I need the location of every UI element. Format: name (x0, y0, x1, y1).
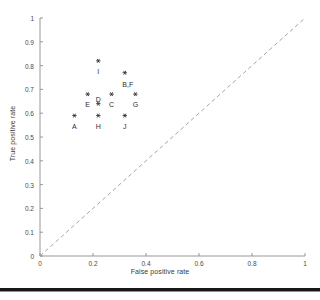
roc-plot-canvas (0, 0, 320, 300)
data-point-marker (96, 114, 100, 118)
point-label-c: C (109, 101, 114, 108)
y-tick-label: 0.2 (8, 205, 34, 212)
y-axis-title: True positive rate (9, 89, 16, 179)
y-tick-label: 0.3 (8, 181, 34, 188)
x-tick-label: 0.2 (88, 260, 97, 267)
y-tick-label: 0 (8, 253, 34, 260)
y-tick-label: 0.1 (8, 229, 34, 236)
data-point-marker (72, 114, 76, 118)
roc-figure: 00.20.40.60.8100.10.20.30.40.50.60.70.80… (0, 0, 320, 300)
data-markers (72, 59, 137, 118)
point-label-a: A (72, 123, 77, 130)
data-point-marker (109, 92, 113, 96)
y-tick-label: 0.8 (8, 62, 34, 69)
y-tick-label: 0.9 (8, 38, 34, 45)
chance-diagonal-line (40, 18, 305, 256)
x-tick-label: 0.8 (247, 260, 256, 267)
data-point-marker (86, 92, 90, 96)
x-axis-title: False positive rate (0, 268, 320, 275)
data-point-marker (123, 114, 127, 118)
x-tick-label: 0 (38, 260, 42, 267)
y-tick-label: 1 (8, 15, 34, 22)
data-point-marker (96, 59, 100, 63)
point-label-d: D (96, 96, 101, 103)
point-label-h: H (96, 123, 101, 130)
point-label-e: E (85, 101, 90, 108)
data-point-marker (123, 71, 127, 75)
x-tick-label: 0.4 (141, 260, 150, 267)
bottom-divider-rule (0, 288, 320, 291)
point-label-b-f: B,F (122, 81, 133, 88)
data-point-marker (133, 92, 137, 96)
x-tick-label: 0.6 (194, 260, 203, 267)
point-label-j: J (123, 123, 127, 130)
x-tick-label: 1 (303, 260, 307, 267)
point-label-i: I (97, 68, 99, 75)
point-label-g: G (133, 101, 138, 108)
